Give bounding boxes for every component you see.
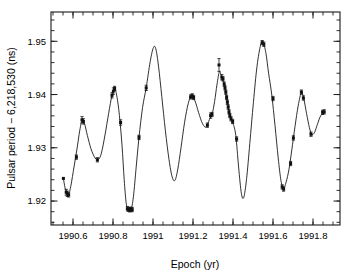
data-point-marker xyxy=(300,91,303,94)
y-tick-label: 1.95 xyxy=(28,36,47,47)
data-point xyxy=(226,100,229,104)
data-point-marker xyxy=(231,120,234,123)
data-point-marker xyxy=(67,193,70,196)
data-point xyxy=(131,207,134,211)
x-tick-label: 1990.8 xyxy=(98,230,127,241)
data-point-marker xyxy=(75,156,78,159)
chart-figure: 1990.61990.819911991.21991.41991.61991.8… xyxy=(0,0,362,280)
data-point-marker xyxy=(96,158,99,161)
data-point-marker xyxy=(289,162,292,165)
data-point-marker xyxy=(62,177,65,180)
y-tick-label: 1.94 xyxy=(28,89,47,100)
data-point xyxy=(300,90,303,94)
x-axis-title: Epoch (yr) xyxy=(171,258,219,270)
data-point xyxy=(145,85,148,90)
data-point xyxy=(309,132,312,136)
data-point-marker xyxy=(145,86,148,89)
data-point xyxy=(113,86,116,90)
data-point-marker xyxy=(226,101,229,104)
data-point xyxy=(292,136,295,140)
pulsar-period-scatter-plot: 1990.61990.819911991.21991.41991.61991.8… xyxy=(0,0,362,280)
data-point-marker xyxy=(82,120,85,123)
data-point-marker xyxy=(113,87,116,90)
data-point xyxy=(67,193,70,197)
data-point-marker xyxy=(224,91,227,94)
data-point xyxy=(289,161,292,165)
data-point xyxy=(323,110,326,114)
data-points xyxy=(62,40,326,211)
data-point-marker xyxy=(323,110,326,113)
data-point xyxy=(262,42,265,46)
data-point xyxy=(217,59,220,72)
data-point xyxy=(221,77,224,81)
data-point-marker xyxy=(192,96,195,99)
data-point-marker xyxy=(206,124,209,127)
data-point-marker xyxy=(223,83,226,86)
data-point xyxy=(210,112,213,116)
data-point-marker xyxy=(302,96,305,99)
data-point xyxy=(62,177,65,180)
data-point-marker xyxy=(262,43,265,46)
data-point-marker xyxy=(131,208,134,211)
axis-tick-labels: 1990.61990.819911991.21991.41991.61991.8… xyxy=(28,36,328,241)
data-point xyxy=(206,123,209,127)
data-point xyxy=(231,119,234,123)
data-point-marker xyxy=(218,63,221,66)
data-point xyxy=(235,137,238,141)
data-point-marker xyxy=(225,96,228,99)
data-point-marker xyxy=(222,77,225,80)
data-point-marker xyxy=(310,133,313,136)
data-point-marker xyxy=(227,106,230,109)
x-tick-label: 1991.8 xyxy=(298,230,327,241)
y-axis-title: Pulsar period − 6,218,530 (ns) xyxy=(5,47,17,189)
data-point xyxy=(282,187,285,191)
y-tick-label: 1.93 xyxy=(28,142,47,153)
data-point xyxy=(225,95,228,99)
data-point xyxy=(224,90,227,94)
data-point xyxy=(137,135,140,139)
data-point-marker xyxy=(235,138,238,141)
fitted-curve-path xyxy=(63,42,324,211)
plot-frame xyxy=(51,12,340,225)
data-point-marker xyxy=(138,136,141,139)
x-tick-label: 1991.4 xyxy=(218,230,247,241)
data-point xyxy=(302,96,305,100)
data-point-marker xyxy=(224,86,227,89)
data-point-marker xyxy=(292,136,295,139)
x-tick-label: 1990.6 xyxy=(58,230,87,241)
x-tick-label: 1991.2 xyxy=(178,230,207,241)
data-point-marker xyxy=(282,188,285,191)
x-tick-label: 1991 xyxy=(142,230,163,241)
axis-ticks xyxy=(51,12,340,225)
data-point-marker xyxy=(119,121,122,124)
data-point-marker xyxy=(211,113,214,116)
data-point xyxy=(271,96,274,100)
data-point xyxy=(75,155,78,159)
data-point-marker xyxy=(230,117,233,120)
data-point xyxy=(223,86,226,90)
data-point-marker xyxy=(272,97,275,100)
fitted-curve xyxy=(63,42,324,211)
data-point xyxy=(192,95,195,99)
data-point-marker xyxy=(228,110,231,113)
data-point xyxy=(119,120,122,125)
y-tick-label: 1.92 xyxy=(28,195,47,206)
data-point xyxy=(96,158,99,162)
data-point xyxy=(227,105,230,109)
x-tick-label: 1991.6 xyxy=(258,230,287,241)
